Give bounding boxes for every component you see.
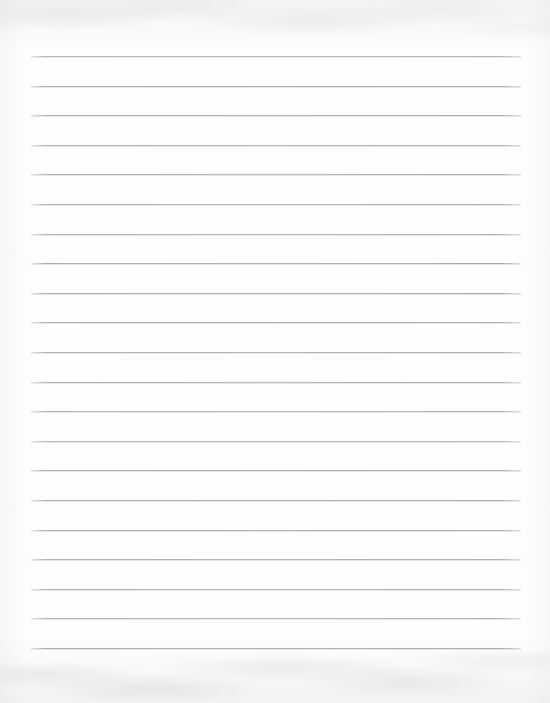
notebook-page — [0, 0, 550, 703]
paper-background — [0, 0, 550, 703]
